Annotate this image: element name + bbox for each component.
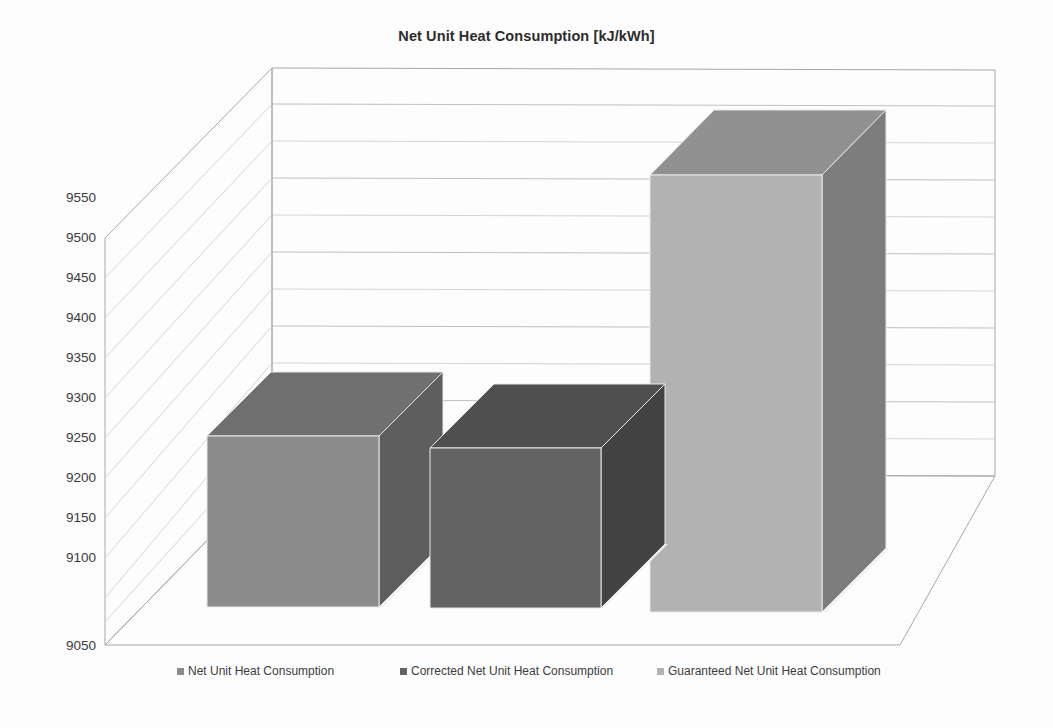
y-tick-label: 9150 xyxy=(66,510,96,525)
y-tick-label: 9200 xyxy=(66,470,96,485)
y-tick-label: 9100 xyxy=(66,550,96,565)
y-axis-tick-labels: 9550 9500 9450 9400 9350 9300 9250 9200 … xyxy=(66,190,96,653)
bar-corrected-net-unit-heat-consumption[interactable] xyxy=(430,384,668,608)
y-tick-label: 9550 xyxy=(66,190,96,205)
y-tick-label: 9250 xyxy=(66,430,96,445)
chart-plot-area: 9550 9500 9450 9400 9350 9300 9250 9200 … xyxy=(0,0,1053,728)
y-tick-label: 9450 xyxy=(66,270,96,285)
legend-marker-icon xyxy=(177,668,184,675)
legend-item-label: Guaranteed Net Unit Heat Consumption xyxy=(668,664,881,678)
legend-item-guaranteed-net-unit-heat-consumption[interactable]: Guaranteed Net Unit Heat Consumption xyxy=(657,664,881,678)
y-tick-label: 9500 xyxy=(66,230,96,245)
chart-container: Net Unit Heat Consumption [kJ/kWh] xyxy=(0,0,1053,728)
bar-net-unit-heat-consumption[interactable] xyxy=(207,372,447,607)
legend-item-label: Corrected Net Unit Heat Consumption xyxy=(411,664,613,678)
y-tick-label: 9400 xyxy=(66,310,96,325)
legend-marker-icon xyxy=(657,668,664,675)
y-tick-label: 9050 xyxy=(66,638,96,653)
chart-legend: Net Unit Heat Consumption Corrected Net … xyxy=(177,664,881,678)
y-tick-label: 9300 xyxy=(66,390,96,405)
legend-marker-icon xyxy=(400,668,407,675)
y-tick-label: 9350 xyxy=(66,350,96,365)
legend-item-net-unit-heat-consumption[interactable]: Net Unit Heat Consumption xyxy=(177,664,334,678)
legend-item-label: Net Unit Heat Consumption xyxy=(188,664,334,678)
bar-guaranteed-net-unit-heat-consumption[interactable] xyxy=(650,110,890,612)
legend-item-corrected-net-unit-heat-consumption[interactable]: Corrected Net Unit Heat Consumption xyxy=(400,664,613,678)
